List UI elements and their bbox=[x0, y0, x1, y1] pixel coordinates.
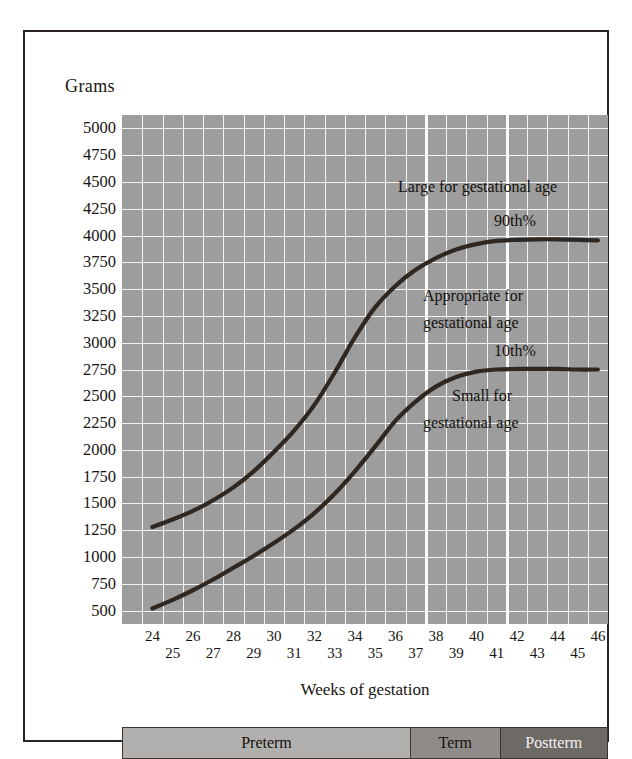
y-tick-label: 3250 bbox=[60, 308, 116, 325]
y-tick-label: 1000 bbox=[60, 549, 116, 566]
term-segment-preterm: Preterm bbox=[123, 728, 411, 758]
y-tick-label: 1750 bbox=[60, 469, 116, 486]
x-tick-label: 44 bbox=[544, 628, 570, 645]
percentile-curve-90th bbox=[152, 239, 598, 527]
x-tick-label: 25 bbox=[160, 645, 186, 662]
y-tick-label: 1500 bbox=[60, 495, 116, 512]
annotation-small-line-1: Small for bbox=[452, 387, 512, 405]
x-tick-label: 38 bbox=[423, 628, 449, 645]
x-tick-label: 39 bbox=[443, 645, 469, 662]
y-tick-label: 4000 bbox=[60, 228, 116, 245]
y-tick-label: 3000 bbox=[60, 335, 116, 352]
x-tick-label: 45 bbox=[565, 645, 591, 662]
x-tick-label: 32 bbox=[301, 628, 327, 645]
annotation-appropriate-line-2: gestational age bbox=[423, 314, 519, 332]
y-tick-label: 750 bbox=[60, 576, 116, 593]
y-tick-label: 3500 bbox=[60, 281, 116, 298]
term-segment-term: Term bbox=[411, 728, 501, 758]
plot-area: Large for gestational age 90th% Appropri… bbox=[122, 115, 608, 624]
x-tick-label: 29 bbox=[241, 645, 267, 662]
x-tick-label: 37 bbox=[403, 645, 429, 662]
annotation-large-for-gestational-age: Large for gestational age bbox=[398, 178, 557, 196]
x-tick-label: 27 bbox=[200, 645, 226, 662]
x-tick-label: 36 bbox=[382, 628, 408, 645]
y-tick-label: 2250 bbox=[60, 415, 116, 432]
x-tick-label: 31 bbox=[281, 645, 307, 662]
y-axis-title: Grams bbox=[65, 76, 115, 97]
y-tick-label: 2000 bbox=[60, 442, 116, 459]
percentile-curve-10th bbox=[152, 369, 598, 609]
y-tick-label: 2750 bbox=[60, 362, 116, 379]
x-axis-tick-labels: 2425262728293031323334353637383940414243… bbox=[122, 628, 608, 676]
annotation-small-line-2: gestational age bbox=[423, 414, 519, 432]
y-tick-label: 500 bbox=[60, 603, 116, 620]
chart-frame: Grams 5007501000125015001750200022502500… bbox=[23, 30, 609, 742]
x-tick-label: 43 bbox=[524, 645, 550, 662]
x-tick-label: 35 bbox=[362, 645, 388, 662]
x-tick-label: 40 bbox=[463, 628, 489, 645]
x-tick-label: 34 bbox=[342, 628, 368, 645]
x-tick-label: 26 bbox=[180, 628, 206, 645]
y-tick-label: 1250 bbox=[60, 522, 116, 539]
term-segment-postterm: Postterm bbox=[501, 728, 608, 758]
annotation-percentile-10: 10th% bbox=[494, 342, 536, 360]
annotation-appropriate-line-1: Appropriate for bbox=[423, 287, 523, 305]
annotation-percentile-90: 90th% bbox=[494, 212, 536, 230]
x-tick-label: 33 bbox=[322, 645, 348, 662]
y-tick-label: 4500 bbox=[60, 174, 116, 191]
x-tick-label: 46 bbox=[585, 628, 611, 645]
x-tick-label: 30 bbox=[261, 628, 287, 645]
x-tick-label: 42 bbox=[504, 628, 530, 645]
y-tick-label: 2500 bbox=[60, 388, 116, 405]
x-tick-label: 24 bbox=[139, 628, 165, 645]
gestation-term-bar: Preterm Term Postterm bbox=[122, 727, 608, 759]
y-axis-tick-labels: 5007501000125015001750200022502500275030… bbox=[58, 115, 116, 624]
y-tick-label: 5000 bbox=[60, 120, 116, 137]
x-axis-title: Weeks of gestation bbox=[122, 680, 608, 700]
x-tick-label: 41 bbox=[484, 645, 510, 662]
x-tick-label: 28 bbox=[220, 628, 246, 645]
y-tick-label: 3750 bbox=[60, 254, 116, 271]
y-tick-label: 4250 bbox=[60, 201, 116, 218]
y-tick-label: 4750 bbox=[60, 147, 116, 164]
